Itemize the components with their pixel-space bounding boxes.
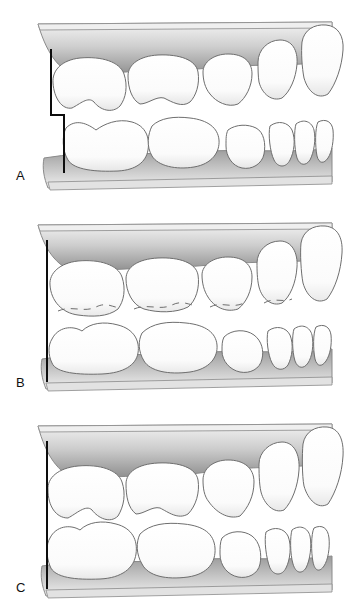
- dental-occlusion-figure: A: [0, 0, 347, 607]
- panel-c-illustration: [0, 406, 347, 607]
- panel-b-illustration: [0, 203, 347, 403]
- panel-a-label: A: [16, 168, 25, 183]
- panel-a: A: [0, 0, 347, 200]
- panel-c: C: [0, 406, 347, 607]
- panel-c-label: C: [16, 580, 25, 595]
- panel-a-illustration: [0, 0, 347, 200]
- panel-b: B: [0, 203, 347, 403]
- panel-b-label: B: [16, 375, 25, 390]
